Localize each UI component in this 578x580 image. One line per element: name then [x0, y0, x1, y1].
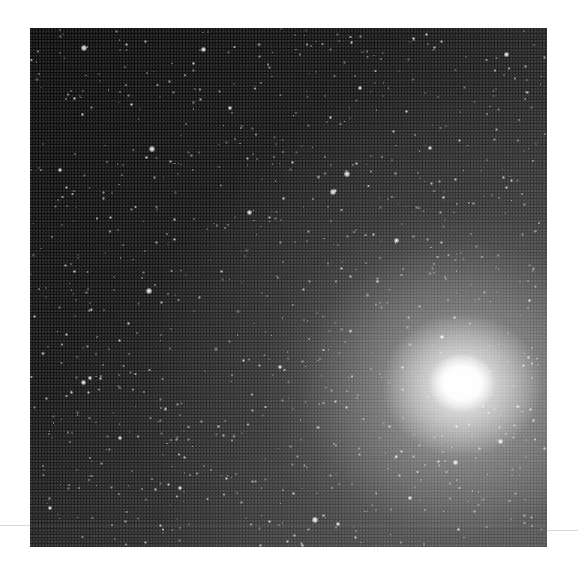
faint-star: [125, 43, 128, 46]
faint-star: [529, 408, 532, 411]
faint-star: [472, 202, 474, 204]
faint-star: [387, 468, 388, 469]
faint-star: [75, 207, 76, 208]
faint-star: [154, 488, 157, 491]
faint-star: [536, 357, 538, 359]
star: [146, 288, 152, 294]
faint-star: [307, 320, 308, 321]
faint-star: [455, 425, 458, 428]
faint-star: [203, 465, 205, 467]
faint-star: [502, 176, 505, 179]
faint-star: [508, 67, 510, 69]
faint-star: [323, 172, 326, 175]
faint-star: [299, 53, 301, 55]
faint-star: [43, 469, 44, 470]
faint-star: [67, 431, 69, 433]
faint-star: [291, 463, 294, 466]
faint-star: [359, 35, 361, 37]
faint-star: [312, 147, 313, 148]
faint-star: [379, 302, 381, 304]
faint-star: [318, 403, 320, 405]
faint-star: [81, 113, 84, 116]
faint-star: [523, 203, 526, 206]
faint-star: [316, 492, 318, 494]
faint-star: [148, 369, 150, 371]
faint-star: [308, 338, 310, 340]
star: [440, 335, 444, 339]
faint-star: [306, 90, 307, 91]
faint-star: [132, 259, 134, 261]
faint-star: [534, 438, 537, 441]
faint-star: [144, 541, 147, 544]
faint-star: [520, 315, 521, 316]
faint-star: [501, 463, 503, 465]
faint-star: [261, 487, 262, 488]
faint-star: [301, 544, 304, 547]
star: [228, 106, 232, 110]
faint-star: [366, 293, 369, 296]
faint-star: [382, 95, 384, 97]
faint-star: [308, 280, 311, 283]
faint-star: [174, 163, 175, 164]
faint-star: [51, 437, 52, 438]
faint-star: [277, 277, 279, 279]
star: [278, 365, 282, 369]
faint-star: [282, 151, 284, 153]
faint-star: [524, 98, 525, 99]
faint-star: [162, 532, 164, 534]
faint-star: [169, 160, 172, 163]
faint-star: [538, 222, 540, 224]
faint-star: [61, 343, 63, 345]
faint-star: [317, 175, 320, 178]
faint-star: [334, 189, 337, 192]
faint-star: [307, 230, 310, 233]
faint-star: [483, 195, 484, 196]
faint-star: [59, 52, 61, 54]
faint-star: [516, 179, 519, 182]
faint-star: [322, 402, 325, 405]
faint-star: [179, 527, 181, 529]
faint-star: [468, 202, 470, 204]
faint-star: [141, 488, 142, 489]
faint-star: [57, 513, 59, 515]
faint-star: [35, 78, 38, 81]
faint-star: [283, 369, 285, 371]
faint-star: [518, 119, 520, 121]
faint-star: [188, 523, 191, 526]
faint-star: [256, 234, 257, 235]
faint-star: [316, 426, 319, 429]
faint-star: [225, 477, 228, 480]
faint-star: [392, 130, 395, 133]
faint-star: [379, 197, 380, 198]
faint-star: [543, 447, 546, 450]
faint-star: [89, 457, 90, 458]
faint-star: [192, 101, 195, 104]
faint-star: [220, 184, 222, 186]
faint-star: [463, 86, 466, 89]
faint-star: [86, 345, 89, 348]
faint-star: [251, 480, 254, 483]
star: [428, 146, 432, 150]
faint-star: [301, 145, 303, 147]
faint-star: [457, 528, 460, 531]
faint-star: [220, 270, 222, 272]
faint-star: [274, 217, 276, 219]
star: [247, 210, 252, 215]
faint-star: [388, 87, 389, 88]
faint-star: [493, 138, 496, 141]
faint-star: [522, 364, 524, 366]
faint-star: [160, 407, 162, 409]
faint-star: [440, 241, 443, 244]
faint-star: [183, 456, 185, 458]
faint-star: [408, 343, 411, 346]
faint-star: [527, 356, 530, 359]
faint-star: [187, 426, 189, 428]
faint-star: [413, 433, 416, 436]
faint-star: [167, 243, 169, 245]
faint-star: [121, 174, 123, 176]
faint-star: [366, 56, 369, 59]
star: [453, 460, 458, 465]
faint-star: [407, 316, 410, 319]
faint-star: [382, 422, 385, 425]
faint-star: [136, 332, 138, 334]
